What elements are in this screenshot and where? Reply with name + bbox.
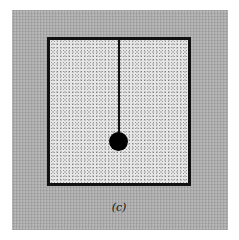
figure-label: (c) [104,201,134,214]
pendulum-string [118,40,120,136]
pendulum-bob [109,132,128,151]
